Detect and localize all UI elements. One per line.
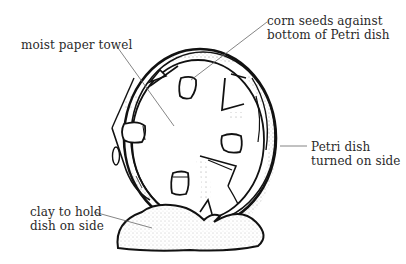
label-paper-towel: moist paper towel <box>21 38 132 52</box>
corn-seed <box>179 77 196 99</box>
clay-base <box>118 200 264 251</box>
petri-dish <box>124 49 277 227</box>
leader-line-corn-seeds <box>191 22 267 80</box>
label-petri-dish-line1: Petri dish <box>311 140 401 154</box>
label-paper-towel-line1: moist paper towel <box>21 38 132 52</box>
corn-seed <box>122 122 145 142</box>
label-corn-seeds-line2: bottom of Petri dish <box>267 28 390 42</box>
label-petri-dish-line2: turned on side <box>311 154 401 168</box>
label-clay-line1: clay to hold <box>30 205 104 219</box>
label-petri-dish: Petri dish turned on side <box>311 140 401 168</box>
label-clay-line2: dish on side <box>30 219 104 233</box>
label-clay: clay to hold dish on side <box>30 205 104 233</box>
corn-seed <box>171 172 188 195</box>
label-corn-seeds-line1: corn seeds against <box>267 14 390 28</box>
corn-seed <box>221 134 241 153</box>
label-corn-seeds: corn seeds against bottom of Petri dish <box>267 14 390 42</box>
